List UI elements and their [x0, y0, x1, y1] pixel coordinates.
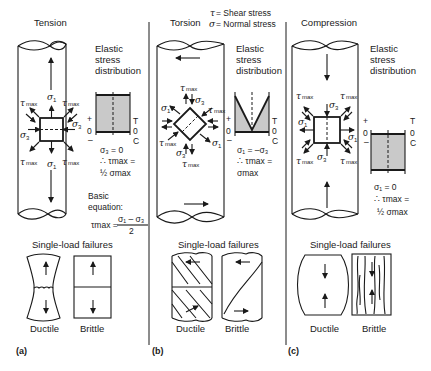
svg-text:stress: stress — [370, 54, 396, 65]
svg-text:1: 1 — [304, 122, 308, 128]
svg-text:∴ τmax =: ∴ τmax = — [100, 156, 135, 166]
stress-diagram: τ = Shear stress σ = Normal stress Tensi… — [0, 0, 431, 371]
svg-text:max: max — [346, 94, 357, 100]
stress-element — [300, 104, 354, 156]
svg-text:max: max — [188, 162, 199, 168]
panel-title: Torsion — [170, 17, 201, 28]
legend: τ = Shear stress σ = Normal stress — [209, 8, 276, 29]
tau-definition: = Shear stress — [216, 8, 271, 18]
stress-distribution-chart — [96, 92, 130, 135]
svg-text:T: T — [410, 116, 415, 126]
svg-text:3: 3 — [335, 105, 339, 111]
svg-text:3: 3 — [78, 124, 82, 130]
single-load-failures-title: Single-load failures — [310, 239, 391, 250]
svg-text:–: – — [227, 135, 232, 145]
svg-text:½ σmax: ½ σmax — [377, 207, 409, 217]
svg-text:σmax: σmax — [237, 168, 259, 178]
sigma-definition: = Normal stress — [216, 19, 276, 29]
svg-text:+: + — [363, 116, 368, 126]
panel-compression: Compression τmax σ3 — [288, 17, 416, 356]
brittle-label: Brittle — [225, 323, 249, 334]
svg-text:3: 3 — [323, 157, 327, 163]
svg-text:1: 1 — [218, 143, 222, 149]
ductile-label: Ductile — [310, 323, 339, 334]
panel-tension: Tension σ1 τmax τmax — [16, 17, 148, 356]
basic-equation-label: Basic — [88, 191, 110, 201]
brittle-tension-failure — [74, 256, 111, 318]
svg-text:–: – — [364, 137, 369, 147]
ductile-label: Ductile — [176, 323, 205, 334]
svg-text:max: max — [68, 101, 79, 107]
svg-text:stress: stress — [95, 54, 121, 65]
svg-text:1: 1 — [354, 137, 358, 143]
brittle-torsion-failure — [222, 253, 262, 322]
equation-line: σ₃ = 0 — [100, 145, 123, 155]
svg-text:0: 0 — [272, 126, 277, 136]
svg-text:1: 1 — [167, 108, 171, 114]
svg-text:max: max — [68, 160, 79, 166]
svg-text:max: max — [165, 141, 176, 147]
single-load-failures-title: Single-load failures — [32, 239, 113, 250]
panel-label: (a) — [16, 346, 27, 356]
svg-text:3: 3 — [26, 135, 30, 141]
brittle-label: Brittle — [80, 323, 104, 334]
basic-equation: τmax = — [91, 220, 118, 230]
svg-text:3: 3 — [201, 100, 205, 106]
svg-text:stress: stress — [236, 54, 262, 65]
svg-text:∴ τmax =: ∴ τmax = — [237, 156, 272, 166]
stress-distribution-chart — [235, 92, 269, 136]
svg-text:distribution: distribution — [370, 65, 416, 76]
elastic-label: Elastic — [370, 43, 398, 54]
sigma-symbol: σ — [209, 19, 216, 29]
svg-text:C: C — [272, 136, 278, 146]
svg-text:∴ τmax =: ∴ τmax = — [374, 194, 409, 204]
svg-text:C: C — [410, 138, 416, 148]
panel-title: Tension — [34, 17, 67, 28]
svg-text:equation:: equation: — [88, 202, 123, 212]
panel-label: (b) — [152, 346, 164, 356]
svg-text:max: max — [302, 159, 313, 165]
stress-distribution-chart — [371, 130, 405, 174]
cylinder-specimen — [157, 41, 224, 223]
ductile-torsion-failure — [172, 253, 212, 322]
ductile-label: Ductile — [30, 323, 59, 334]
svg-text:σ₁ – σ₃: σ₁ – σ₃ — [118, 214, 144, 224]
svg-text:T: T — [272, 116, 277, 126]
svg-text:+: + — [226, 114, 231, 124]
panel-torsion: Torsion τmax σ3 σ1 — [152, 17, 282, 356]
svg-text:–: – — [88, 135, 93, 145]
svg-text:1: 1 — [53, 164, 57, 170]
svg-text:2: 2 — [129, 226, 134, 236]
svg-text:max: max — [26, 101, 37, 107]
svg-text:max: max — [214, 108, 225, 114]
svg-text:max: max — [186, 86, 197, 92]
brittle-compression-failure — [352, 254, 391, 315]
ductile-tension-failure — [27, 254, 60, 321]
equation-line: σ₁ = 0 — [374, 182, 397, 192]
elastic-label: Elastic — [236, 43, 264, 54]
svg-text:max: max — [346, 159, 357, 165]
elastic-label: Elastic — [95, 43, 123, 54]
svg-text:C: C — [133, 136, 139, 146]
stress-element — [26, 106, 77, 153]
svg-text:max: max — [302, 94, 313, 100]
equation-line: σ₁ = –σ₃ — [237, 145, 268, 155]
panel-label: (c) — [288, 346, 299, 356]
panel-title: Compression — [301, 17, 357, 28]
svg-text:T: T — [133, 116, 138, 126]
svg-text:distribution: distribution — [236, 65, 282, 76]
svg-text:max: max — [26, 160, 37, 166]
svg-text:+: + — [87, 114, 92, 124]
ductile-compression-failure — [298, 255, 349, 315]
svg-text:1: 1 — [53, 97, 57, 103]
single-load-failures-title: Single-load failures — [178, 239, 259, 250]
svg-text:distribution: distribution — [95, 65, 141, 76]
svg-text:½ σmax: ½ σmax — [100, 168, 132, 178]
svg-text:0: 0 — [410, 128, 415, 138]
svg-text:0: 0 — [133, 126, 138, 136]
brittle-label: Brittle — [362, 323, 386, 334]
